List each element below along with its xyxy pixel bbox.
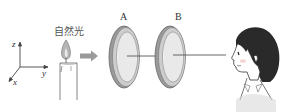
axis-y-label: y [42,69,46,78]
diagram-graphics [0,0,288,112]
polarizer-a-label: A [120,12,127,22]
light-direction-arrow [80,51,98,62]
polarizer-b-label: B [175,12,182,22]
axis-z-label: z [12,40,16,49]
polarization-diagram: 自然光 z y x A B [0,0,288,112]
axis-x-label: x [13,78,17,87]
natural-light-label: 自然光 [54,27,84,37]
polarizer-b [155,26,186,88]
polarizer-a [109,26,140,88]
observer-person-icon [232,27,280,112]
candle-icon [60,40,77,100]
